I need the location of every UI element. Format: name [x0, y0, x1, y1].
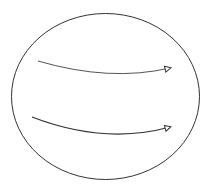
top-arrow — [38, 61, 170, 74]
bottom-arrow — [32, 117, 170, 134]
outer-ellipse — [12, 14, 200, 180]
diagram-canvas — [0, 0, 209, 190]
